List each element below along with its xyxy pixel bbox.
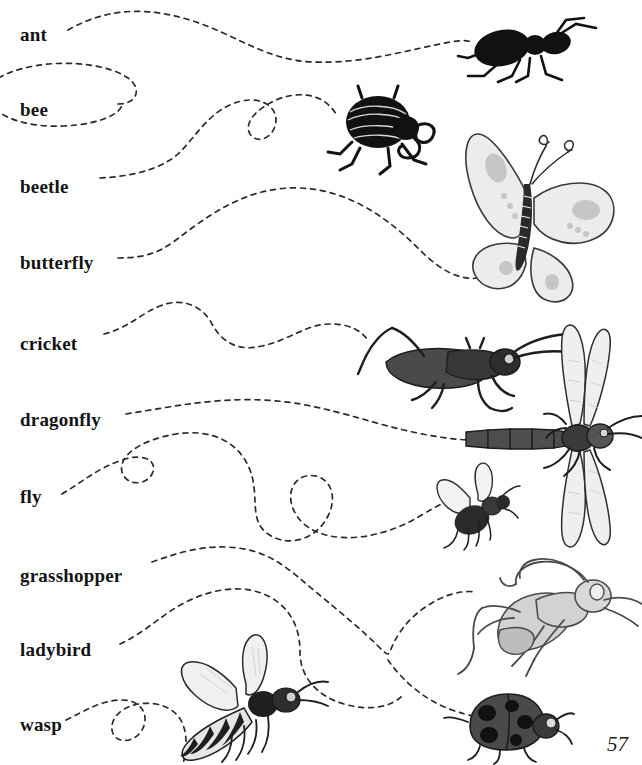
worksheet-page: ant bee beetle butterfly cricket dragonf… <box>0 0 642 765</box>
page-number: 57 <box>607 732 628 757</box>
label-grasshopper[interactable]: grasshopper <box>20 566 123 585</box>
label-wasp[interactable]: wasp <box>20 715 62 734</box>
word-labels-layer: ant bee beetle butterfly cricket dragonf… <box>0 0 642 765</box>
label-cricket[interactable]: cricket <box>20 334 77 353</box>
label-beetle[interactable]: beetle <box>20 177 69 196</box>
label-dragonfly[interactable]: dragonfly <box>20 410 101 429</box>
label-ladybird[interactable]: ladybird <box>20 640 91 659</box>
label-butterfly[interactable]: butterfly <box>20 253 94 272</box>
label-ant[interactable]: ant <box>20 25 47 44</box>
label-bee[interactable]: bee <box>20 100 48 119</box>
label-fly[interactable]: fly <box>20 487 42 506</box>
